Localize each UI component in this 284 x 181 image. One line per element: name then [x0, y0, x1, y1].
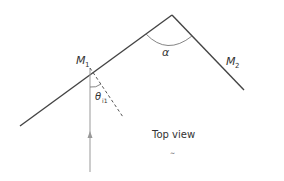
theta-arc [90, 84, 101, 87]
mirror-m1 [20, 15, 172, 126]
alpha-arc [146, 34, 192, 46]
caption-mark: ~ [170, 149, 175, 156]
ray-arrowhead [88, 131, 93, 138]
label-m1-sub: 1 [85, 61, 89, 69]
label-theta-sub: i1 [102, 97, 108, 104]
label-theta: θ [95, 91, 101, 102]
label-m2-sub: 2 [235, 62, 239, 70]
two-mirror-diagram: M 1 M 2 α θ i1 Top view ~ [0, 0, 284, 181]
mirror-m2 [172, 15, 244, 90]
label-alpha: α [162, 46, 170, 59]
caption-top-view: Top view [151, 129, 195, 140]
